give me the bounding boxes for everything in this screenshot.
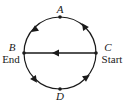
arrow-lower-left-icon <box>30 75 40 85</box>
point-c-label: C <box>104 41 112 53</box>
path-diagram: A B End C Start D <box>0 0 129 101</box>
arrow-diameter-icon <box>52 50 59 57</box>
point-a-label: A <box>56 3 64 15</box>
point-c-dot <box>94 51 98 55</box>
point-d-label: D <box>55 90 64 101</box>
point-b-label: B <box>9 41 16 53</box>
end-label: End <box>2 53 20 65</box>
point-b-dot <box>22 51 26 55</box>
start-label: Start <box>102 53 123 65</box>
arrow-upper-left-icon <box>29 25 39 35</box>
point-a-dot <box>58 15 62 19</box>
